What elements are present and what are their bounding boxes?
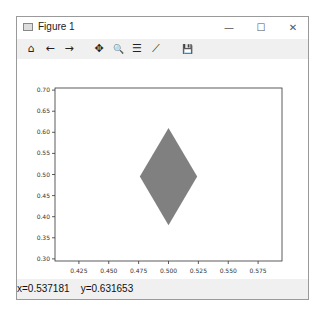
y-tick-label: 0.60	[37, 128, 51, 135]
y-tick-label: 0.70	[37, 86, 51, 93]
diamond-polygon	[140, 128, 197, 225]
maximize-button[interactable]: ☐	[249, 20, 273, 36]
x-tick-label: 0.525	[190, 267, 207, 274]
forward-icon[interactable]: →	[61, 40, 77, 58]
edit-axis-icon[interactable]: ⟋	[148, 40, 164, 58]
x-tick-label: 0.500	[160, 267, 177, 274]
y-tick-label: 0.45	[37, 192, 51, 199]
zoom-icon[interactable]: 🔍	[110, 40, 126, 58]
x-tick-label: 0.425	[70, 267, 87, 274]
status-bar: x=0.537181 y=0.631653	[17, 279, 308, 299]
pan-icon[interactable]: ✥	[91, 40, 107, 58]
x-tick-label: 0.550	[220, 267, 237, 274]
y-tick-label: 0.30	[37, 255, 51, 262]
app-icon	[23, 23, 33, 31]
title-bar: Figure 1 — ☐ ✕	[17, 17, 308, 39]
configure-subplots-icon[interactable]: ☰	[129, 40, 145, 58]
figure-window: Figure 1 — ☐ ✕ ⌂ ← → ✥ 🔍 ☰ ⟋ 💾 0.4250.45…	[16, 16, 309, 300]
y-tick-label: 0.35	[37, 234, 51, 241]
home-icon[interactable]: ⌂	[23, 40, 39, 58]
y-tick-label: 0.55	[37, 149, 51, 156]
figure-canvas[interactable]: 0.4250.4500.4750.5000.5250.5500.5750.300…	[17, 59, 308, 281]
save-icon[interactable]: 💾	[179, 40, 195, 58]
y-tick-label: 0.65	[37, 107, 51, 114]
x-tick-label: 0.450	[100, 267, 117, 274]
chart[interactable]: 0.4250.4500.4750.5000.5250.5500.5750.300…	[17, 59, 308, 281]
y-tick-label: 0.40	[37, 213, 51, 220]
window-title: Figure 1	[38, 21, 75, 32]
x-tick-label: 0.475	[130, 267, 147, 274]
toolbar: ⌂ ← → ✥ 🔍 ☰ ⟋ 💾	[17, 39, 308, 59]
back-icon[interactable]: ←	[42, 40, 58, 58]
cursor-x: x=0.537181	[17, 283, 70, 294]
x-tick-label: 0.575	[250, 267, 267, 274]
cursor-y: y=0.631653	[81, 283, 134, 294]
minimize-button[interactable]: —	[217, 20, 241, 36]
y-tick-label: 0.50	[37, 171, 51, 178]
close-button[interactable]: ✕	[281, 20, 305, 36]
